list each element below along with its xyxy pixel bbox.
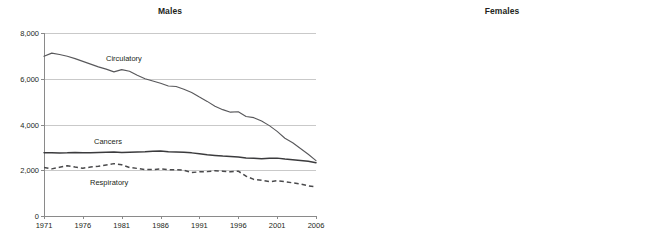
x-axis-label: 1996 [230,221,247,230]
x-axis-label: 1976 [75,221,92,230]
x-tick-1981 [122,216,123,219]
y-axis-label: 0 [35,212,39,221]
x-tick-1991 [199,216,200,219]
y-axis-label: 2,000 [20,166,39,175]
series-line-circulatory [44,53,316,161]
x-axis-label: 1981 [113,221,130,230]
x-tick-1971 [44,216,45,219]
x-axis-label: 1971 [36,221,53,230]
chart-panel-males: Males 02,0004,0006,0008,0001971197619811… [0,0,330,245]
gridline-0 [44,216,316,217]
x-tick-1976 [83,216,84,219]
series-label-cancers-males: Cancers [94,137,122,146]
x-tick-2001 [277,216,278,219]
series-label-circulatory-males: Circulatory [106,54,142,63]
chart-panel-females: Females 02,0004,0006,0008,00019711976198… [329,0,659,245]
series-lines [44,33,316,216]
x-tick-1996 [238,216,239,219]
series-label-respiratory-males: Respiratory [90,178,128,187]
x-axis-label: 1991 [191,221,208,230]
x-axis-label: 1986 [152,221,169,230]
y-axis-label: 8,000 [20,29,39,38]
x-tick-2006 [316,216,317,219]
y-axis-label: 4,000 [20,120,39,129]
series-line-respiratory [44,164,316,187]
chart-page: Health: mortality by cause Males 02,0004… [0,0,659,245]
x-axis-label: 2006 [308,221,325,230]
x-tick-1986 [161,216,162,219]
chart-title-males: Males [0,6,330,16]
plot-area-males: 02,0004,0006,0008,0001971197619811986199… [44,33,316,216]
chart-title-females: Females [329,6,659,16]
x-axis-label: 2001 [269,221,286,230]
series-line-cancers [44,151,316,163]
y-axis-label: 6,000 [20,74,39,83]
